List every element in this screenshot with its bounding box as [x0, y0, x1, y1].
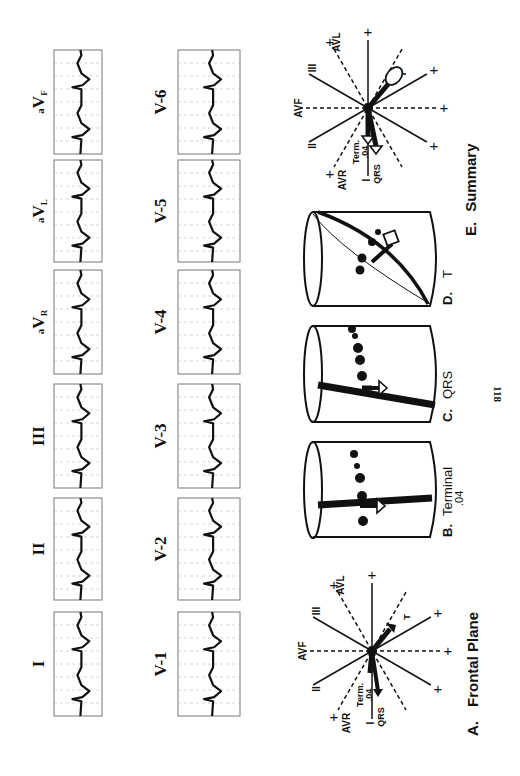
avr-label: AVR — [337, 169, 348, 190]
lead-label: V-3 — [151, 423, 170, 448]
t-label: T — [402, 614, 412, 620]
limb-lead-strips — [54, 50, 102, 716]
vector-dot — [358, 516, 368, 526]
lead-label: III — [29, 426, 48, 446]
vector-dot — [352, 333, 358, 339]
caption-c: C.QRS — [440, 371, 455, 423]
lead-label: I — [29, 660, 48, 667]
caption-a: A.Frontal Plane — [464, 612, 481, 736]
iii-plus: + — [433, 680, 442, 697]
iii-plus: + — [429, 137, 438, 154]
limb-strip-avf — [54, 50, 102, 154]
lead-ii-label: II — [307, 143, 318, 149]
lead-ii-label: II — [311, 686, 322, 692]
origin — [367, 646, 377, 656]
avr-label: AVR — [341, 712, 352, 733]
vector-dot — [368, 238, 376, 246]
precordial-strip-v-2 — [178, 498, 240, 600]
vector-dot — [357, 371, 367, 381]
lead-i-minus-label: I — [365, 721, 376, 724]
avr-plus: + — [330, 708, 339, 725]
limb-strip-ii — [54, 498, 102, 600]
lead-label: aVL — [29, 199, 49, 223]
vector-dot — [358, 254, 367, 263]
vector-dot — [350, 450, 358, 458]
lead-label: V-1 — [151, 651, 170, 676]
avl-label: AVL — [335, 575, 346, 594]
t-loop-curve — [318, 212, 428, 304]
avl-label: AVL — [331, 32, 342, 51]
page-number: 118 — [492, 386, 504, 402]
origin — [363, 103, 373, 113]
qrs-label: QRS — [372, 164, 382, 184]
terminal-plane-bar — [318, 498, 432, 505]
precordial-strip-v-6 — [178, 50, 240, 154]
lead-label: aVF — [29, 90, 49, 114]
vector-dot — [355, 473, 365, 483]
precordial-strip-v-1 — [178, 612, 240, 716]
lead-label: II — [29, 542, 48, 556]
panel-d-cylinder — [304, 212, 436, 306]
precordial-strip-v-5 — [178, 160, 240, 262]
panel-a-frontal-plane-hexaxial: ++++++AVFAVLIIIIIAVRTerm..04IQRST — [297, 566, 453, 733]
precordial-strip-v-4 — [178, 270, 240, 374]
limb-lead-labels: IIIIIIaVRaVLaVF — [29, 90, 49, 667]
limb-strip-avr — [54, 270, 102, 374]
lead-label: V-5 — [151, 198, 170, 223]
precordial-lead-labels: V-1V-2V-3V-4V-5V-6 — [151, 89, 170, 676]
lead-i-plus: + — [368, 566, 377, 583]
vector-dot — [353, 343, 363, 353]
avr-plus: + — [326, 165, 335, 182]
lead-i-plus: + — [364, 23, 373, 40]
ii-plus: + — [433, 604, 442, 621]
limb-strip-iii — [54, 384, 102, 488]
lead-i-minus-label: I — [361, 178, 372, 181]
lead-label: V-6 — [151, 89, 170, 114]
avf-label: AVF — [297, 641, 308, 660]
vector-dot — [356, 266, 365, 275]
qrs-label: QRS — [376, 707, 386, 727]
ii-plus: + — [429, 61, 438, 78]
caption-b-subtitle: .04 — [453, 491, 465, 506]
panel-e-summary-hexaxial: ++++++AVFAVLIIIIIAVRTerm..04IQRST — [293, 23, 449, 190]
vector-dot — [355, 355, 365, 365]
vector-dot — [357, 491, 367, 501]
limb-strip-i — [54, 612, 102, 716]
lead-label: V-2 — [151, 536, 170, 561]
avf-label: AVF — [293, 98, 304, 117]
panel-b-cylinder — [304, 442, 436, 538]
t-arrow-head — [383, 230, 398, 245]
qrs-arrow-head — [373, 689, 383, 697]
precordial-strip-v-3 — [178, 384, 240, 488]
caption-d: D.T — [440, 270, 455, 305]
limb-strip-avl — [54, 160, 102, 262]
vector-dot — [375, 229, 381, 235]
term-value-label: .04 — [364, 689, 374, 702]
lead-label: aVR — [29, 309, 49, 334]
figure-canvas: IIIIIIaVRaVLaVF V-1V-2V-3V-4V-5V-6 — [0, 0, 520, 776]
lead-iii-label: III — [307, 64, 318, 73]
avf-plus: + — [444, 642, 453, 659]
lead-label: V-4 — [151, 309, 170, 335]
qrs-vector — [372, 651, 378, 691]
panel-c-cylinder — [304, 325, 436, 422]
caption-e: E.Summary — [462, 143, 479, 236]
avf-plus: + — [440, 99, 449, 116]
lead-iii-label: III — [311, 607, 322, 616]
qrs-arrow-head — [370, 146, 382, 154]
page: IIIIIIaVRaVLaVF V-1V-2V-3V-4V-5V-6 — [0, 0, 520, 776]
vector-dot — [348, 325, 356, 333]
term-value-label: .04 — [360, 146, 370, 159]
vector-dot — [354, 463, 360, 469]
precordial-lead-strips — [178, 50, 240, 716]
t-vector — [368, 82, 390, 108]
